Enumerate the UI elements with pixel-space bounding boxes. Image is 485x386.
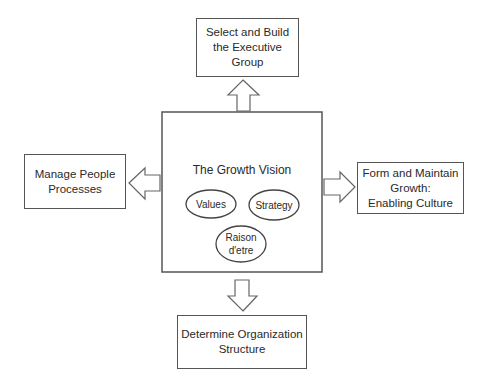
manage-people-label: Manage People Processes [35,167,116,197]
strategy-label: Strategy [249,199,299,212]
manage-people-box: Manage People Processes [24,154,126,209]
organization-structure-box: Determine Organization Structure [177,315,307,369]
select-build-executive-box: Select and Build the Executive Group [196,18,299,77]
raison-detre-label: Raison d'etre [216,231,266,257]
arrow-right-icon [324,172,355,202]
arrow-down-icon [228,280,257,311]
organization-structure-label: Determine Organization Structure [181,327,302,357]
enabling-culture-label: Form and Maintain Growth: Enabling Cultu… [363,166,459,211]
values-label: Values [186,198,236,211]
select-build-executive-label: Select and Build the Executive Group [197,25,298,70]
arrow-up-icon [228,80,259,111]
arrow-left-icon [129,168,160,199]
enabling-culture-box: Form and Maintain Growth: Enabling Cultu… [357,162,464,214]
center-title: The Growth Vision [162,163,322,177]
